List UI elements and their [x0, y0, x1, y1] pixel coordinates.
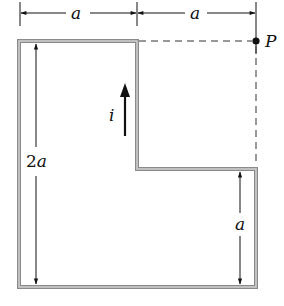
label-right-a: a	[235, 214, 245, 234]
current-arrowhead-icon	[120, 83, 130, 97]
label-top-left-a: a	[71, 3, 81, 23]
label-left-2a: 2a	[26, 151, 47, 171]
dashed-guide-lines	[139, 41, 256, 166]
wire-loop-inner	[19, 41, 256, 287]
label-point-p: P	[264, 31, 277, 51]
label-current-i: i	[109, 105, 114, 125]
label-top-right-a: a	[190, 3, 200, 23]
point-p-dot	[252, 37, 259, 44]
l-shaped-loop-diagram: a a P i 2a a	[0, 0, 284, 306]
